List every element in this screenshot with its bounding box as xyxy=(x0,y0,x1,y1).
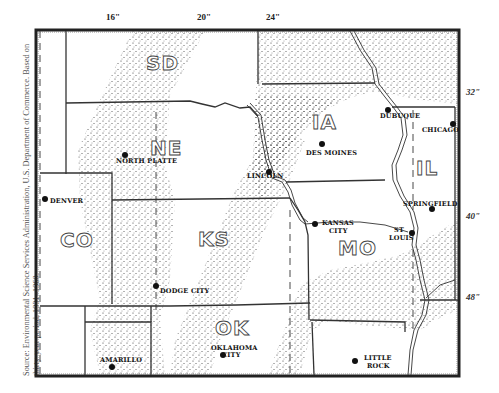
state-label-sd: SD xyxy=(146,51,179,75)
city-label-little-rock-1: LITTLE xyxy=(364,354,392,362)
state-label-ia: IA xyxy=(312,110,337,134)
state-label-mo: MO xyxy=(338,236,377,260)
precipitation-map: SD NE IA IL CO KS MO OK NORTH PLATTE LIN… xyxy=(0,0,499,393)
boundary-ks-ok xyxy=(40,303,310,306)
city-label-springfield: SPRINGFIELD xyxy=(403,200,458,208)
boundary-ia-mo xyxy=(286,180,385,182)
city-dot-denver xyxy=(42,196,48,202)
city-label-denver: DENVER xyxy=(50,197,84,205)
city-dot-dodge-city xyxy=(153,283,159,289)
city-label-oklahoma-city-2: CITY xyxy=(222,351,241,359)
city-label-little-rock-2: ROCK xyxy=(367,362,390,370)
city-label-north-platte: NORTH PLATTE xyxy=(116,157,177,165)
city-dot-little-rock xyxy=(352,358,358,364)
boundary-ok-ar xyxy=(312,322,314,375)
city-dot-kansas-city xyxy=(312,221,318,227)
city-label-st-louis-1: ST xyxy=(394,226,404,234)
city-label-amarillo: AMARILLO xyxy=(99,356,142,364)
city-label-chicago: CHICAGO xyxy=(422,126,459,134)
state-label-ok: OK xyxy=(215,316,250,340)
city-dot-amarillo xyxy=(109,364,115,370)
missouri-river-mo xyxy=(305,222,408,232)
city-label-dodge-city: DODGE CITY xyxy=(160,287,210,295)
stipple-bands xyxy=(78,31,458,375)
city-label-des-moines: DES MOINES xyxy=(306,149,357,157)
city-label-kansas-city-2: CITY xyxy=(329,227,348,235)
city-label-st-louis-2: LOUIS xyxy=(389,234,414,242)
city-label-kansas-city-1: KANSAS xyxy=(322,219,354,227)
city-dot-des-moines xyxy=(319,141,325,147)
state-label-il: IL xyxy=(416,156,438,180)
stipple-band-iowa-west xyxy=(255,95,340,180)
city-label-dubuque: DUBUQUE xyxy=(380,112,420,120)
city-label-lincoln: LINCOLN xyxy=(247,172,283,180)
state-label-co: CO xyxy=(60,228,94,252)
state-label-ks: KS xyxy=(198,227,230,251)
